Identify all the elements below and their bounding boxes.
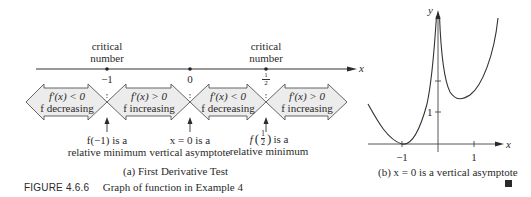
interval-behavior: f increasing — [275, 102, 339, 114]
number-line — [36, 67, 357, 72]
point-label-half: 1 2 — [262, 72, 270, 87]
point-label-0: 0 — [180, 73, 200, 85]
critical-number-label-2: critical number — [241, 40, 291, 64]
critical-label-line2: number — [82, 52, 132, 64]
caption-panel-a: (a) First Derivative Test — [123, 165, 228, 177]
interval-text-4: f′(x) > 0 f increasing — [275, 90, 339, 114]
annotation-line1: f(−1) is a — [67, 134, 147, 146]
annotation-line2: relative minimum — [228, 145, 310, 157]
graph-b — [368, 10, 504, 152]
critical-number-label-1: critical number — [82, 40, 132, 64]
annotation-relative-min-2: f ( 1 2 ) is a relative minimum — [228, 130, 310, 157]
interval-derivative: f′(x) < 0 — [36, 90, 98, 102]
annotation-relative-min-1: f(−1) is a relative minimum — [67, 134, 147, 158]
interval-behavior: f increasing — [117, 102, 181, 114]
interval-behavior: f decreasing — [36, 102, 98, 114]
x-axis-label-b: x — [506, 138, 511, 150]
figure-caption-text: Graph of function in Example 4 — [103, 181, 243, 193]
caption-b-text: (b) x = 0 is a vertical asymptote — [378, 166, 518, 178]
interval-text-2: f′(x) > 0 f increasing — [117, 90, 181, 114]
end-mark — [505, 180, 512, 187]
figure-caption: FIGURE 4.6.6 Graph of function in Exampl… — [24, 181, 243, 193]
y-axis-label: y — [428, 4, 433, 16]
interval-text-1: f′(x) < 0 f decreasing — [36, 90, 98, 114]
interval-derivative: f′(x) > 0 — [117, 90, 181, 102]
y-tick-1: 1 — [427, 106, 433, 118]
critical-label-line1: critical — [82, 40, 132, 52]
annotation-vertical-asymptote: x = 0 is a vertical asymptote — [148, 134, 232, 158]
interval-derivative: f′(x) < 0 — [198, 90, 258, 102]
axis-label-x: x — [359, 62, 364, 74]
x-tick-neg1: −1 — [392, 151, 412, 163]
annotation-line2: relative minimum — [67, 146, 147, 158]
x-tick-1: 1 — [464, 151, 484, 163]
paren-open: ( — [255, 133, 259, 145]
paren-close: ) — [267, 133, 271, 145]
critical-label-line1: critical — [241, 40, 291, 52]
interval-text-3: f′(x) < 0 f decreasing — [198, 90, 258, 114]
point-label-neg1: −1 — [97, 73, 117, 85]
annotation-line2: vertical asymptote — [148, 146, 232, 158]
annotation-line1: x = 0 is a — [148, 134, 232, 146]
critical-label-line2: number — [241, 52, 291, 64]
half-denominator: 2 — [262, 80, 270, 87]
interval-behavior: f decreasing — [198, 102, 258, 114]
figure-number: FIGURE 4.6.6 — [24, 182, 89, 193]
caption-panel-b: (b) x = 0 is a vertical asymptote — [378, 166, 518, 178]
annotation-is-a: is a — [273, 133, 288, 145]
interval-derivative: f′(x) > 0 — [275, 90, 339, 102]
f-symbol: f — [250, 133, 253, 145]
